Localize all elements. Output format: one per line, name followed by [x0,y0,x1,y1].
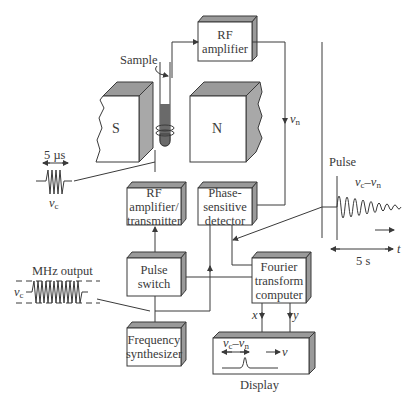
rf-transmitter-line1: RF [146,186,161,200]
fid-nu-n: –ν [365,175,377,189]
synth-line2: synthesizer [126,347,182,361]
north-magnet-label: N [212,122,222,136]
pulse-switch-label: Pulse switch [127,258,181,296]
south-magnet [96,82,153,162]
fourier-line1: Fourier [261,260,298,274]
mhz-nu-c-sub: c [20,290,24,300]
display-frequency-label: νc–νn [223,336,249,353]
display-axis-label: ν [282,345,288,359]
fourier-line3: computer [255,288,302,302]
rf-amplifier-line2: amplifier [202,42,248,56]
nu-c-label: νc [49,196,59,213]
fid-nu-n-sub: n [376,180,381,190]
nu-c-sub: c [55,201,59,211]
rf-transmitter-label: RF amplifier/ transmitter [127,188,181,225]
sample-tube [156,62,174,146]
phase-detector-line1: Phase- [208,186,241,200]
fourier-line2: transform [255,274,304,288]
t-axis-label: t [397,242,400,256]
rf-transmitter-line2: amplifier/ [129,200,178,214]
rf-transmitter-line3: transmitter [127,214,181,228]
short-pulse-waveform [36,163,72,194]
display-label: Display [240,378,279,392]
nu-n-label: νn [290,112,300,129]
rf-amplifier-label: RF amplifier [198,22,252,61]
nu-n-sub: n [296,117,301,127]
pulse-width-label: 5 µs [44,148,65,162]
fid-frequency-label: νc–νn [355,175,381,192]
phase-detector-line2: sensitive [203,200,247,214]
fid-plot [322,42,401,249]
sample-label: Sample [120,53,158,67]
x-output-label: x [252,308,258,322]
display-nu-n: –ν [233,336,245,350]
time-scale-label: 5 s [356,254,370,268]
phase-detector-label: Phase- sensitive detector [198,188,252,225]
display-nu-n-sub: n [244,341,249,351]
y-output-label: y [293,308,299,322]
pulse-label: Pulse [329,155,356,169]
phase-detector-line3: detector [205,214,245,228]
mhz-output-label: MHz output [32,264,93,278]
south-magnet-label: S [112,122,120,136]
fourier-computer-label: Fourier transform computer [252,258,306,303]
rf-amplifier-line1: RF [217,28,232,42]
pulse-switch-line2: switch [138,277,171,291]
pulse-switch-line1: Pulse [140,263,167,277]
mhz-nu-c-label: νc [14,285,24,302]
synth-line1: Frequency [128,333,181,347]
mhz-output-waveform [16,281,100,303]
north-magnet [190,82,262,162]
frequency-synthesizer-label: Frequency synthesizer [127,328,181,366]
